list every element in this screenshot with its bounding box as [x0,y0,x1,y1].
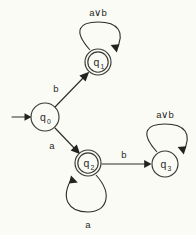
state-q2[interactable]: q 2 [75,150,101,176]
self-loop-q2 [66,175,106,212]
self-loop-q1-arrowhead [111,44,120,52]
self-loop-q3 [147,124,187,155]
edge-q2-q3-arrowhead [144,160,151,168]
edge-q2-q3 [102,160,152,168]
state-q1[interactable]: q 1 [85,49,111,75]
state-q0-subscript: 0 [47,118,51,125]
label-self-loop-q2: a [85,219,91,230]
state-q1-subscript: 1 [101,63,105,70]
label-edge-q0-q2: a [49,140,55,151]
state-q3-label: q [161,158,167,170]
edge-q0-q1 [55,72,89,107]
state-q3[interactable]: q 3 [152,151,178,177]
start-arrow [12,113,32,121]
label-self-loop-q1: a∨b [89,7,107,18]
label-edge-q0-q1: b [53,83,58,94]
edge-q0-q1-line [55,76,86,108]
state-q2-label: q [84,157,90,169]
automaton-svg: q 0 q 1 q 2 q 3 a∨b a∨b a b a b [0,0,196,235]
label-edge-q2-q3: b [121,149,126,160]
automaton-diagram: q 0 q 1 q 2 q 3 a∨b a∨b a b a b [0,0,196,235]
state-q1-label: q [94,56,100,68]
state-q0[interactable]: q 0 [31,103,59,131]
self-loop-q2-arrowhead [69,175,78,183]
state-q0-label: q [40,111,46,123]
self-loop-q1 [80,22,120,53]
label-self-loop-q3: a∨b [156,109,174,120]
edge-q0-q2 [55,128,80,154]
self-loop-q3-arrowhead [178,146,187,154]
state-q2-subscript: 2 [91,164,95,171]
state-q3-subscript: 3 [168,165,172,172]
edge-q0-q2-line [55,128,77,151]
